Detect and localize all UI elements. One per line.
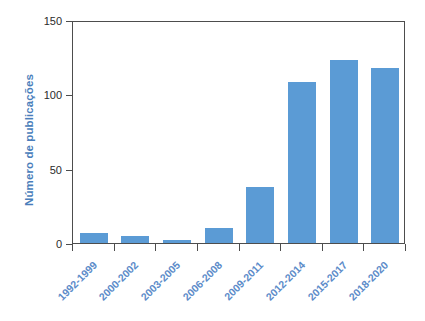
bar-slot: [323, 22, 365, 243]
bar: [246, 187, 274, 243]
bar: [330, 60, 358, 243]
bar: [371, 68, 399, 243]
y-axis-title: Número de publicações: [14, 30, 44, 250]
x-tick-mark: [72, 244, 73, 251]
plot-area: [72, 21, 405, 244]
bar: [288, 82, 316, 243]
bar: [163, 240, 191, 243]
bar-slot: [364, 22, 406, 243]
bar-slot: [240, 22, 282, 243]
bars-layer: [73, 22, 404, 243]
x-tick-mark: [197, 244, 198, 251]
bar: [205, 228, 233, 243]
bar-slot: [281, 22, 323, 243]
y-tick-label-50: 50: [20, 164, 62, 176]
x-tick-mark: [114, 244, 115, 251]
bar-slot: [198, 22, 240, 243]
y-tick-label-0: 0: [20, 238, 62, 250]
bar-slot: [73, 22, 115, 243]
bar: [80, 233, 108, 243]
y-tick-label-150: 150: [20, 15, 62, 27]
x-tick-mark: [322, 244, 323, 251]
y-tick-label-100: 100: [20, 89, 62, 101]
x-tick-mark: [280, 244, 281, 251]
x-tick-mark: [155, 244, 156, 251]
bar-slot: [156, 22, 198, 243]
bar: [121, 236, 149, 243]
x-tick-mark: [239, 244, 240, 251]
bar-slot: [115, 22, 157, 243]
x-tick-mark: [363, 244, 364, 251]
bar-chart: Número de publicações 150 100 50 0 1992-…: [0, 0, 425, 321]
x-tick-mark: [405, 244, 406, 251]
